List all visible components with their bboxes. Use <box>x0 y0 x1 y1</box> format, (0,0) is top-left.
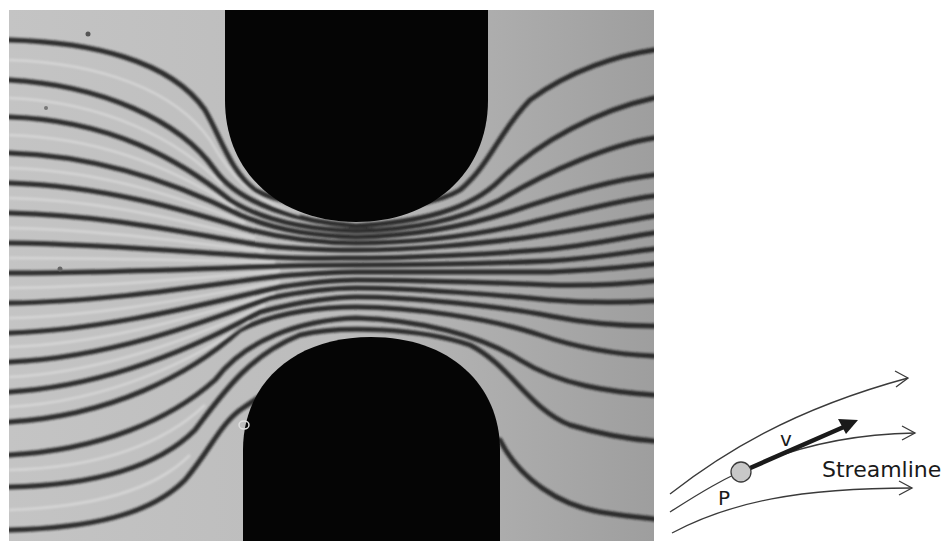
label-p: P <box>718 486 730 510</box>
point-p <box>731 462 751 482</box>
bottom-obstacle <box>243 337 500 541</box>
dust-speck <box>44 106 48 110</box>
arrowhead-upper <box>895 371 908 387</box>
streamline-schematic: v P Streamline <box>670 371 941 533</box>
label-v: v <box>780 427 792 451</box>
flow-photo <box>9 10 654 541</box>
dust-speck <box>86 32 91 37</box>
label-streamline: Streamline <box>822 457 941 482</box>
figure: v P Streamline <box>0 0 945 552</box>
streamline-lower <box>672 488 912 533</box>
dust-speck <box>58 267 63 272</box>
